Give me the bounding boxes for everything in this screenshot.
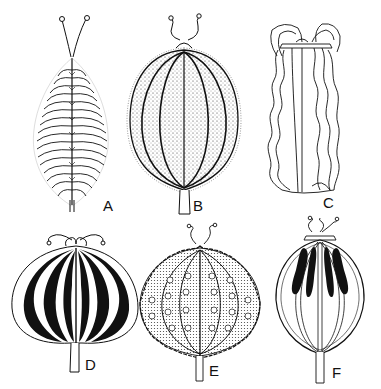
fruit-f	[276, 216, 364, 383]
fruit-d	[12, 235, 138, 372]
fruit-c	[268, 24, 340, 193]
figure-label-e: E	[209, 363, 219, 378]
fruit-a	[33, 16, 108, 213]
fruit-e	[140, 223, 260, 381]
botanical-plate: A B C D E F	[0, 0, 381, 389]
figure-label-a: A	[103, 198, 113, 213]
figure-label-b: B	[193, 198, 203, 213]
figure-label-f: F	[332, 365, 341, 380]
figure-label-d: D	[85, 357, 96, 372]
figure-label-c: C	[323, 195, 334, 210]
fruit-b	[127, 14, 241, 214]
